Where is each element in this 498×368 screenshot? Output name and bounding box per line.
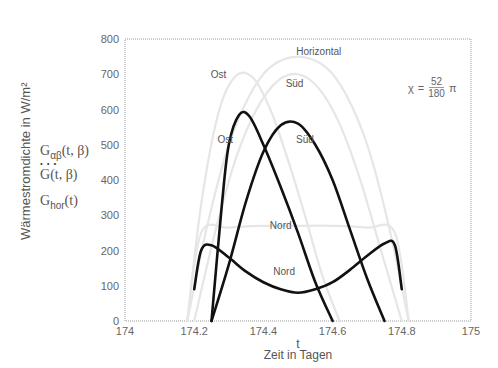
x-axis-ticks: 174174.2174.4174.6174.8175 xyxy=(116,325,480,337)
curve-label: Ost xyxy=(218,134,234,145)
legend-symbol: G xyxy=(40,167,50,182)
y-tick-label: 600 xyxy=(101,104,119,116)
series-line-nord-light xyxy=(187,225,408,321)
x-tick-label: 175 xyxy=(462,325,480,337)
curve-label: Horizontal xyxy=(296,46,341,57)
curve-label: Ost xyxy=(211,69,227,80)
curve-label: Süd xyxy=(296,134,314,145)
curve-labels: OstSüdHorizontalOstSüdNordNord xyxy=(211,46,342,277)
curve-label: Süd xyxy=(286,78,304,89)
y-tick-label: 800 xyxy=(101,33,119,45)
x-axis-label: Zeit in Tagen xyxy=(0,348,498,362)
curve-label: Nord xyxy=(270,220,292,231)
legend-subscript: hor xyxy=(50,200,64,211)
legend-entry-g-hor: Ghor(t) xyxy=(40,193,78,211)
x-tick-label: 174.8 xyxy=(388,325,416,337)
light-series-group xyxy=(187,57,408,321)
legend-args: (t, β) xyxy=(62,143,89,158)
legend-symbol: G xyxy=(40,143,50,158)
curve-label: Nord xyxy=(273,266,295,277)
formula-numerator: 52 xyxy=(429,76,444,88)
y-axis-ticks: 0100200300400500600700800 xyxy=(101,33,119,327)
formula-lhs: χ xyxy=(408,82,414,94)
chi-formula: χ = 52 180 π xyxy=(408,76,457,99)
formula-denominator: 180 xyxy=(428,88,445,99)
chart: 0100200300400500600700800 174174.2174.41… xyxy=(0,0,498,368)
y-tick-label: 500 xyxy=(101,139,119,151)
y-tick-label: 300 xyxy=(101,209,119,221)
x-tick-label: 174.4 xyxy=(250,325,278,337)
formula-rhs: π xyxy=(449,82,457,94)
y-tick-label: 400 xyxy=(101,174,119,186)
legend-symbol: G xyxy=(40,193,50,208)
formula-eq: = xyxy=(418,82,424,94)
series-line-s-d-light xyxy=(194,74,402,321)
y-tick-label: 100 xyxy=(101,280,119,292)
x-tick-label: 174 xyxy=(116,325,134,337)
y-tick-label: 200 xyxy=(101,245,119,257)
x-tick-label: 174.6 xyxy=(319,325,347,337)
y-axis-label: Wärmestromdichte in W/m² xyxy=(18,83,33,240)
formula-fraction: 52 180 xyxy=(428,76,445,99)
legend-args: (t, β) xyxy=(50,167,77,182)
legend-args: (t) xyxy=(65,193,78,208)
legend-entry-g-alpha-beta: Gαβ(t, β) xyxy=(40,143,89,161)
legend-entry-g-dot: G(t, β) xyxy=(40,167,77,183)
x-tick-label: 174.2 xyxy=(180,325,208,337)
y-tick-label: 700 xyxy=(101,68,119,80)
